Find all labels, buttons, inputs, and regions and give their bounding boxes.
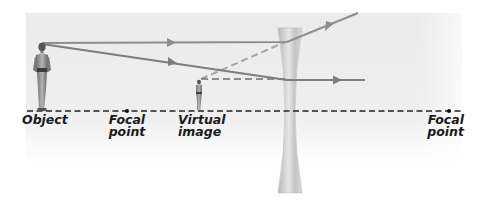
label-object-text: Object	[22, 114, 68, 126]
diverging-lens-diagram: Object Focal point Virtual image Focal p…	[0, 0, 486, 200]
label-object: Object	[22, 114, 68, 126]
label-focal-point-left: Focal point	[100, 114, 154, 138]
diagram-canvas	[0, 0, 486, 200]
label-focal-right-line2: point	[420, 126, 464, 138]
label-virtual-image: Virtual image	[178, 114, 234, 138]
label-focal-point-right: Focal point	[420, 114, 464, 138]
label-virtual-line2: image	[178, 126, 234, 138]
label-focal-left-line2: point	[100, 126, 154, 138]
